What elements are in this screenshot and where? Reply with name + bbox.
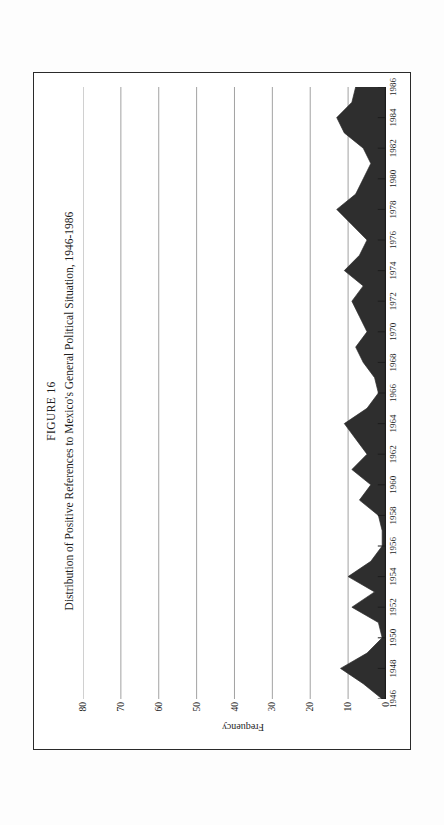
x-axis-tick-label: 1964 (388, 415, 398, 433)
y-axis-title-text: Frequency (221, 722, 263, 733)
y-axis-tick-label: 80 (78, 702, 88, 712)
figure-number-label: FIGURE 16 (44, 87, 60, 735)
x-axis-tick-label: 1966 (388, 384, 398, 402)
x-axis-tick-label: 1972 (388, 292, 398, 310)
y-axis-tick-label: 50 (192, 702, 202, 712)
y-axis-title: Frequency (83, 719, 402, 735)
x-axis-tick-label: 1982 (388, 139, 398, 157)
x-axis-tick-label: 1962 (388, 445, 398, 463)
figure-title: Distribution of Positive References to M… (62, 87, 78, 735)
x-axis-tick-label: 1950 (388, 629, 398, 647)
x-axis-tick-label: 1984 (388, 109, 398, 127)
y-axis-tick-label: 70 (116, 702, 126, 712)
figure-content: FIGURE 16 Distribution of Positive Refer… (34, 73, 410, 749)
x-axis-tick-label: 1948 (388, 659, 398, 677)
plot-wrapper: Frequency 01020304050607080 194619481950… (83, 87, 402, 735)
x-axis-tick-label: 1970 (388, 323, 398, 341)
x-axis-tick-label: 1946 (388, 690, 398, 708)
x-axis-tick-label: 1978 (388, 200, 398, 218)
x-axis-tick-label: 1958 (388, 506, 398, 524)
x-axis-tick-label: 1968 (388, 353, 398, 371)
x-axis-tick-label: 1960 (388, 476, 398, 494)
x-axis-tick-label: 1954 (388, 568, 398, 586)
y-axis-tick-label: 60 (154, 702, 164, 712)
figure-border: FIGURE 16 Distribution of Positive Refer… (33, 72, 411, 750)
x-axis-tick-labels: 1946194819501952195419561958196019621964… (386, 87, 402, 699)
scanned-page: FIGURE 16 Distribution of Positive Refer… (0, 0, 444, 825)
x-axis-tick-label: 1986 (388, 78, 398, 96)
x-axis-tick-label: 1980 (388, 170, 398, 188)
x-axis-tick-label: 1956 (388, 537, 398, 555)
rotated-figure-host: FIGURE 16 Distribution of Positive Refer… (34, 73, 410, 749)
y-axis-tick-label: 10 (343, 702, 353, 712)
plot-column: 1946194819501952195419561958196019621964… (83, 87, 402, 699)
y-axis-tick-label: 40 (230, 702, 240, 712)
y-axis-tick-labels: 01020304050607080 (83, 699, 402, 719)
x-axis-tick-label: 1952 (388, 598, 398, 616)
y-axis-tick-label: 30 (267, 702, 277, 712)
y-axis-tick-label: 20 (305, 702, 315, 712)
x-axis-tick-label: 1976 (388, 231, 398, 249)
x-axis-tick-label: 1974 (388, 262, 398, 280)
chart-plot-area (83, 87, 386, 699)
area-chart-svg (83, 87, 386, 699)
